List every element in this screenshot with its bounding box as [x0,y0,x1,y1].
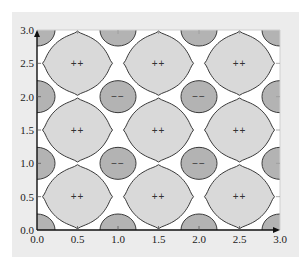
positive-sign-label: ++ [233,58,247,69]
negative-sign-label: −− [111,91,125,102]
y-tick-label: 0.5 [20,191,34,203]
positive-sign-label: ++ [71,58,85,69]
x-tick-label: 0.5 [71,233,85,245]
positive-sign-label: ++ [233,125,247,136]
x-tick-label: 2.5 [233,233,247,245]
positive-sign-label: ++ [71,125,85,136]
y-tick-label: 2.0 [20,91,34,103]
positive-sign-label: ++ [152,58,166,69]
negative-sign-label: −− [192,91,206,102]
contour-chart: −−−−−−−−++++++++++++++++++ 0.00.51.01.52… [0,0,299,257]
positive-sign-label: ++ [233,191,247,202]
y-tick-label: 0.0 [20,224,34,236]
x-tick-label: 2.0 [192,233,206,245]
x-axis-tick-labels: 0.00.51.01.52.02.53.0 [30,233,287,245]
positive-sign-label: ++ [152,191,166,202]
y-tick-label: 1.0 [20,157,34,169]
x-tick-label: 1.0 [111,233,125,245]
x-tick-label: 1.5 [152,233,166,245]
y-axis-tick-labels: 0.00.51.01.52.02.53.0 [20,24,34,236]
y-tick-label: 3.0 [20,24,34,36]
negative-sign-label: −− [111,158,125,169]
y-tick-label: 2.5 [20,57,34,69]
x-tick-label: 3.0 [273,233,287,245]
positive-sign-label: ++ [71,191,85,202]
y-tick-label: 1.5 [20,124,34,136]
negative-sign-label: −− [192,158,206,169]
contour-regions: −−−−−−−−++++++++++++++++++ [19,14,298,246]
positive-sign-label: ++ [152,125,166,136]
